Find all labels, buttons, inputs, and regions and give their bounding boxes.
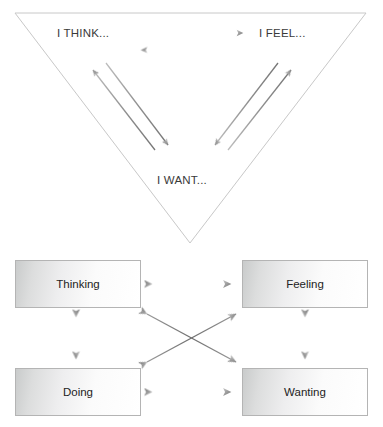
box-feeling[interactable]: Feeling: [242, 260, 368, 308]
box-thinking[interactable]: Thinking: [15, 260, 141, 308]
box-wanting[interactable]: Wanting: [242, 368, 368, 416]
arrow-think-to-want: [106, 63, 168, 145]
arrow-want-to-think: [93, 70, 155, 150]
arrow-feel-to-want: [215, 63, 278, 145]
box-feeling-label: Feeling: [286, 278, 324, 290]
box-doing[interactable]: Doing: [15, 368, 141, 416]
diagram-canvas: [0, 0, 383, 427]
triangle-outline: [15, 13, 366, 243]
box-thinking-label: Thinking: [56, 278, 99, 290]
triangle-node-want: I WANT...: [157, 174, 207, 186]
triangle-node-feel: I FEEL...: [259, 27, 306, 39]
diagram-root: I THINK... I FEEL... I WANT... Thinking …: [0, 0, 383, 427]
arrow-want-to-feel: [228, 70, 291, 150]
box-wanting-label: Wanting: [284, 386, 326, 398]
box-doing-label: Doing: [63, 386, 93, 398]
triangle-node-think: I THINK...: [57, 27, 109, 39]
